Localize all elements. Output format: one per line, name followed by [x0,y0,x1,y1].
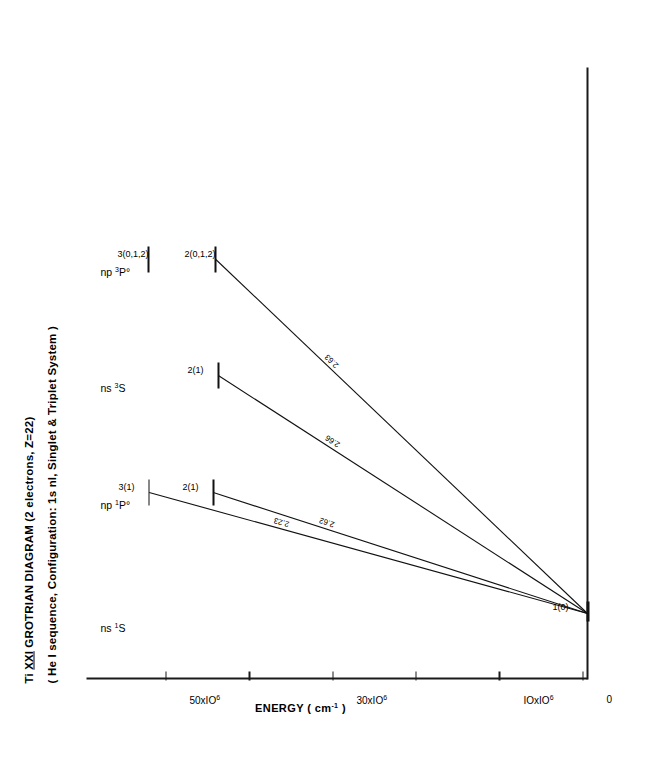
energy-level-label: 3(0,1,2) [117,248,148,258]
grotrian-diagram-page: Ti XXI GROTRIAN DIAGRAM (2 electrons, Z=… [0,0,671,775]
energy-level-bar [586,601,589,621]
energy-level-label: 2(1) [187,364,203,374]
figure-canvas: Ti XXI GROTRIAN DIAGRAM (2 electrons, Z=… [0,0,671,775]
energy-level-bar [212,479,214,505]
transition-lines [0,0,671,775]
energy-level-bar [148,479,150,505]
energy-level-bar [217,362,219,388]
energy-level-label: 1(0) [552,601,568,611]
energy-level-label: 2(0,1,2) [184,248,215,258]
energy-level-label: 2(1) [182,481,198,491]
energy-level-label: 3(1) [118,481,134,491]
